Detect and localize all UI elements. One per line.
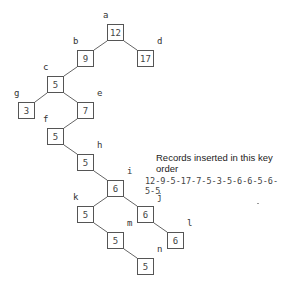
- edge-j-l: [154, 223, 167, 232]
- stray-mark: [257, 203, 259, 204]
- caption-title: Records inserted in this key order: [156, 152, 288, 174]
- edge-c-g: [35, 93, 47, 102]
- tree-edges: [0, 0, 288, 291]
- tree-node-i: 6: [107, 180, 124, 197]
- edge-e-f: [64, 119, 77, 128]
- node-label-a: a: [103, 10, 108, 20]
- tree-node-k: 5: [77, 206, 94, 223]
- tree-diagram: 12a9b17d5c3g7e5f5h6i5k6j5m6l5n: [0, 0, 288, 291]
- tree-node-n: 5: [137, 258, 154, 275]
- tree-node-a: 12: [107, 24, 124, 41]
- node-label-m: m: [127, 218, 132, 228]
- insertion-order: 12-9-5-17-7-5-3-5-6-6-5-6-5-5: [145, 176, 288, 196]
- tree-node-m: 5: [107, 232, 124, 249]
- node-label-f: f: [43, 114, 48, 124]
- node-label-b: b: [73, 36, 78, 46]
- tree-node-g: 3: [18, 102, 35, 119]
- node-label-h: h: [97, 140, 102, 150]
- edge-a-d: [124, 41, 137, 50]
- tree-node-l: 6: [167, 232, 184, 249]
- tree-node-j: 6: [137, 206, 154, 223]
- node-label-n: n: [157, 244, 162, 254]
- node-label-e: e: [97, 88, 102, 98]
- node-label-k: k: [73, 192, 78, 202]
- edge-c-e: [64, 93, 77, 102]
- node-label-c: c: [43, 62, 48, 72]
- edge-f-h: [64, 145, 77, 154]
- edge-m-n: [124, 249, 137, 258]
- node-label-l: l: [187, 218, 192, 228]
- tree-node-d: 17: [137, 50, 154, 67]
- tree-node-f: 5: [47, 128, 64, 145]
- edge-h-i: [94, 171, 107, 180]
- edge-b-c: [64, 67, 77, 76]
- node-label-g: g: [14, 88, 19, 98]
- tree-node-e: 7: [77, 102, 94, 119]
- edge-a-b: [94, 41, 107, 50]
- tree-node-b: 9: [77, 50, 94, 67]
- tree-node-h: 5: [77, 154, 94, 171]
- edge-i-k: [94, 197, 107, 206]
- edge-i-j: [124, 197, 137, 206]
- node-label-d: d: [157, 36, 162, 46]
- tree-node-c: 5: [47, 76, 64, 93]
- edge-k-m: [94, 223, 107, 232]
- node-label-i: i: [127, 166, 132, 176]
